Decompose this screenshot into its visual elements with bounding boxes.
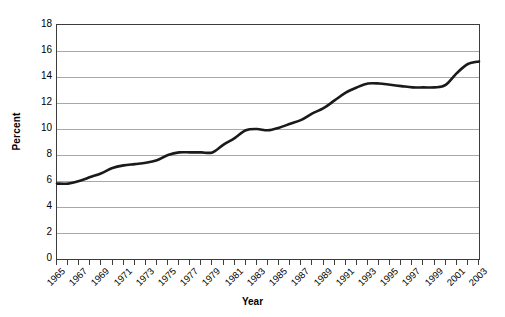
x-tick [323, 259, 324, 265]
x-tick-label: 1981 [223, 266, 245, 288]
x-tick [178, 259, 179, 265]
x-tick [300, 259, 301, 265]
x-tick [245, 259, 246, 265]
x-tick [189, 259, 190, 265]
y-tick-label: 2 [46, 227, 52, 237]
x-tick [289, 259, 290, 265]
x-tick-label: 1973 [134, 266, 156, 288]
x-tick-label: 1969 [89, 266, 111, 288]
x-tick [389, 259, 390, 265]
x-tick-label: 1971 [112, 266, 134, 288]
x-tick [100, 259, 101, 265]
x-tick-label: 1987 [289, 266, 311, 288]
x-tick [367, 259, 368, 265]
x-tick [422, 259, 423, 265]
x-tick [223, 259, 224, 265]
x-axis-ticks [56, 259, 480, 266]
x-tick-label: 1967 [67, 266, 89, 288]
x-tick [123, 259, 124, 265]
x-tick [478, 259, 479, 265]
x-tick [334, 259, 335, 265]
y-tick-label: 8 [46, 149, 52, 159]
x-tick [278, 259, 279, 265]
x-tick [56, 259, 57, 265]
x-tick [311, 259, 312, 265]
x-tick [400, 259, 401, 265]
x-tick [267, 259, 268, 265]
x-tick [145, 259, 146, 265]
x-tick [467, 259, 468, 265]
plot-area [56, 24, 480, 260]
x-tick-label: 1979 [201, 266, 223, 288]
x-tick [411, 259, 412, 265]
x-tick-label: 1993 [356, 266, 378, 288]
x-axis-tick-labels: 1965196719691971197319751977197919811983… [0, 266, 505, 296]
x-tick [167, 259, 168, 265]
series-path [57, 61, 479, 183]
y-axis-title-label: Percent [11, 112, 22, 150]
x-tick [78, 259, 79, 265]
y-tick-label: 16 [41, 45, 52, 55]
x-tick-label: 1983 [245, 266, 267, 288]
x-tick-label: 1991 [334, 266, 356, 288]
x-tick [234, 259, 235, 265]
x-tick [256, 259, 257, 265]
x-tick [89, 259, 90, 265]
x-axis-title: Year [0, 296, 505, 307]
x-tick [112, 259, 113, 265]
x-tick [345, 259, 346, 265]
line-chart: Percent 024681012141618 1965196719691971… [0, 0, 505, 317]
x-tick-label: 1995 [378, 266, 400, 288]
y-axis-title: Percent [6, 0, 26, 262]
y-tick-label: 6 [46, 175, 52, 185]
series-line [57, 25, 479, 259]
y-tick-label: 0 [46, 253, 52, 263]
y-tick-label: 10 [41, 123, 52, 133]
x-tick [434, 259, 435, 265]
y-tick-label: 4 [46, 201, 52, 211]
x-tick [356, 259, 357, 265]
x-tick [378, 259, 379, 265]
x-tick [445, 259, 446, 265]
x-tick [67, 259, 68, 265]
x-tick-label: 2003 [467, 266, 489, 288]
x-tick-label: 2001 [445, 266, 467, 288]
x-tick [156, 259, 157, 265]
x-tick-label: 1965 [45, 266, 67, 288]
x-tick-label: 1989 [312, 266, 334, 288]
y-tick-label: 14 [41, 71, 52, 81]
x-tick [211, 259, 212, 265]
x-tick-label: 1997 [400, 266, 422, 288]
x-tick [456, 259, 457, 265]
x-tick-label: 1999 [423, 266, 445, 288]
x-tick-label: 1985 [267, 266, 289, 288]
y-tick-label: 18 [41, 19, 52, 29]
x-tick-label: 1975 [156, 266, 178, 288]
x-tick-label: 1977 [178, 266, 200, 288]
x-tick [134, 259, 135, 265]
y-tick-label: 12 [41, 97, 52, 107]
x-tick [200, 259, 201, 265]
